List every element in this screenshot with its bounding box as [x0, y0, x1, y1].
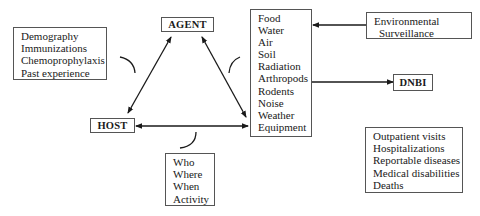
outcomes-box: Outpatient visits Hospitalizations Repor…: [365, 127, 463, 193]
environment-factor: Soil: [258, 48, 311, 60]
host-factor: Past experience: [21, 67, 106, 79]
host-node: HOST: [90, 118, 135, 133]
environment-factor: Arthropods: [258, 72, 311, 84]
interaction-factor: When: [173, 180, 214, 192]
environment-factors-box: Food Water Air Soil Radiation Arthropods…: [250, 9, 312, 137]
environment-factor: Water: [258, 24, 311, 36]
environment-factor: Weather: [258, 109, 311, 121]
interaction-factor: Activity: [173, 193, 214, 205]
environment-factor: Equipment: [258, 121, 311, 133]
environment-factor: Radiation: [258, 60, 311, 72]
agent-environment-arrow: [202, 37, 246, 117]
interaction-factor: Where: [173, 168, 214, 180]
host-factors-box: Demography Immunizations Chemoprophylaxi…: [13, 27, 107, 80]
interaction-factor: Who: [173, 156, 214, 168]
environment-factor: Rodents: [258, 85, 311, 97]
interaction-factors-bracket: [180, 132, 196, 148]
outcome: Medical disabilities: [373, 167, 462, 179]
surveillance-box: Environmental Surveillance: [366, 12, 472, 39]
host-factor: Chemoprophylaxis: [21, 54, 106, 66]
dnbi-node: DNBI: [393, 74, 433, 91]
surveillance-line-2: Surveillance: [374, 27, 471, 39]
outcome: Reportable diseases: [373, 154, 462, 166]
outcome: Outpatient visits: [373, 130, 462, 142]
environment-factor: Food: [258, 12, 311, 24]
environment-factor: Noise: [258, 97, 311, 109]
outcome: Deaths: [373, 179, 462, 191]
host-factor: Demography: [21, 30, 106, 42]
outcome: Hospitalizations: [373, 142, 462, 154]
agent-node: AGENT: [161, 17, 214, 32]
environment-factor: Air: [258, 36, 311, 48]
interaction-factors-box: Who Where When Activity: [165, 153, 215, 206]
agent-host-arrow: [128, 37, 171, 113]
surveillance-line-1: Environmental: [374, 15, 471, 27]
host-factor: Immunizations: [21, 42, 106, 54]
environment-factors-bracket: [229, 57, 240, 73]
host-factors-bracket: [120, 57, 135, 73]
